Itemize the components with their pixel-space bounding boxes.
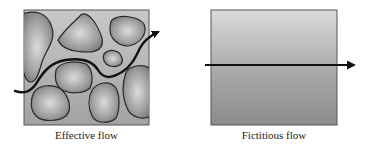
- caption-effective-flow: Effective flow: [24, 129, 149, 141]
- effective-flow-panel: [15, 10, 158, 125]
- grain: [103, 51, 122, 67]
- figure-canvas: [0, 0, 372, 147]
- grain: [55, 62, 92, 93]
- homogenized-medium-box: [211, 10, 337, 125]
- caption-fictitious-flow: Fictitious flow: [211, 129, 337, 141]
- fictitious-flow-panel: [205, 10, 354, 125]
- grain: [89, 83, 119, 122]
- grain: [123, 66, 152, 118]
